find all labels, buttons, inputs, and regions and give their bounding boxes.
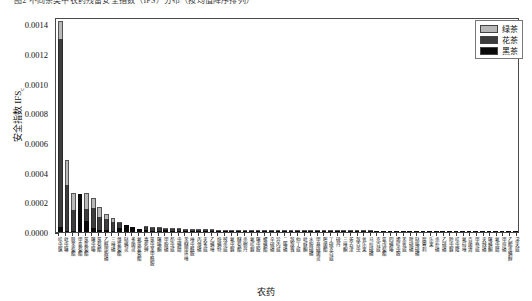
stacked-bar[interactable] <box>368 230 373 232</box>
x-axis-ticks <box>55 233 519 236</box>
stacked-bar[interactable] <box>473 231 478 232</box>
stacked-bar[interactable] <box>328 230 333 232</box>
stacked-bar[interactable] <box>163 228 168 232</box>
x-axis-label-slot: 灭线磷 <box>479 237 486 283</box>
stacked-bar[interactable] <box>421 231 426 232</box>
stacked-bar[interactable] <box>513 231 518 232</box>
x-axis-tick-label: 吡蚜酮 <box>301 237 306 251</box>
stacked-bar[interactable] <box>78 194 83 232</box>
x-axis-label-slot: 乐果 <box>426 237 433 283</box>
bar-segment-dark-tea <box>480 231 485 232</box>
stacked-bar[interactable] <box>361 230 366 232</box>
stacked-bar[interactable] <box>480 231 485 232</box>
x-axis-tick-label: 噻螨酮 <box>487 237 492 251</box>
stacked-bar[interactable] <box>394 231 399 232</box>
x-axis-tick-label: 啶虫脒 <box>56 237 61 251</box>
stacked-bar[interactable] <box>454 231 459 232</box>
stacked-bar[interactable] <box>355 230 360 232</box>
figure-container: 图2 不同茶类中农药残留安全指数（IFS）分布（按均值降序排列） 0.00000… <box>0 0 532 301</box>
stacked-bar[interactable] <box>308 230 313 232</box>
stacked-bar[interactable] <box>407 231 412 232</box>
stacked-bar[interactable] <box>65 160 70 232</box>
stacked-bar[interactable] <box>282 230 287 232</box>
x-axis-tick-label: 氯菊酯 <box>96 237 101 251</box>
stacked-bar[interactable] <box>111 218 116 233</box>
stacked-bar[interactable] <box>315 230 320 232</box>
bar-slot <box>275 19 282 232</box>
stacked-bar[interactable] <box>487 231 492 232</box>
stacked-bar[interactable] <box>401 231 406 232</box>
bar-slot <box>235 19 242 232</box>
stacked-bar[interactable] <box>91 198 96 232</box>
stacked-bar[interactable] <box>71 193 76 232</box>
stacked-bar[interactable] <box>381 231 386 232</box>
x-axis-tick-label: 水胺硫磷 <box>308 237 313 256</box>
stacked-bar[interactable] <box>262 230 267 232</box>
stacked-bar[interactable] <box>190 229 195 232</box>
stacked-bar[interactable] <box>183 229 188 232</box>
stacked-bar[interactable] <box>269 230 274 232</box>
stacked-bar[interactable] <box>506 231 511 232</box>
stacked-bar[interactable] <box>500 231 505 232</box>
stacked-bar[interactable] <box>144 226 149 232</box>
stacked-bar[interactable] <box>467 231 472 232</box>
stacked-bar[interactable] <box>229 230 234 232</box>
stacked-bar[interactable] <box>427 231 432 232</box>
stacked-bar[interactable] <box>117 222 122 232</box>
stacked-bar[interactable] <box>243 230 248 232</box>
stacked-bar[interactable] <box>170 228 175 232</box>
stacked-bar[interactable] <box>440 231 445 232</box>
legend-item-flower-tea[interactable]: 花茶 <box>480 34 518 45</box>
stacked-bar[interactable] <box>104 214 109 232</box>
stacked-bar[interactable] <box>295 230 300 232</box>
stacked-bar[interactable] <box>58 21 63 232</box>
stacked-bar[interactable] <box>249 230 254 232</box>
stacked-bar[interactable] <box>289 230 294 232</box>
stacked-bar[interactable] <box>434 231 439 232</box>
stacked-bar[interactable] <box>447 231 452 232</box>
stacked-bar[interactable] <box>130 227 135 232</box>
stacked-bar[interactable] <box>348 230 353 232</box>
stacked-bar[interactable] <box>137 229 142 232</box>
bar-slot <box>308 19 315 232</box>
x-axis-label-slot: 噻嗪酮 <box>154 237 161 283</box>
stacked-bar[interactable] <box>374 231 379 232</box>
stacked-bar[interactable] <box>341 230 346 232</box>
stacked-bar[interactable] <box>256 230 261 232</box>
x-axis-tick-label: 四螨嗪 <box>387 237 392 251</box>
x-axis-tick-label: 喹硫磷 <box>407 237 412 251</box>
stacked-bar[interactable] <box>335 230 340 232</box>
bar-slot <box>255 19 262 232</box>
stacked-bar[interactable] <box>124 225 129 232</box>
x-axis-label-slot: 莠去津 <box>347 237 354 283</box>
stacked-bar[interactable] <box>236 230 241 232</box>
stacked-bar[interactable] <box>216 230 221 232</box>
stacked-bar[interactable] <box>150 227 155 232</box>
x-axis-label-slot: 氯菊酯 <box>95 237 102 283</box>
stacked-bar[interactable] <box>414 231 419 232</box>
stacked-bar[interactable] <box>157 227 162 232</box>
stacked-bar[interactable] <box>302 230 307 232</box>
bar-slot <box>453 19 460 232</box>
stacked-bar[interactable] <box>203 229 208 232</box>
stacked-bar[interactable] <box>388 231 393 232</box>
stacked-bar[interactable] <box>493 231 498 232</box>
stacked-bar[interactable] <box>460 231 465 232</box>
stacked-bar[interactable] <box>210 229 215 232</box>
bar-slot <box>459 19 466 232</box>
legend-item-dark-tea[interactable]: 黑茶 <box>480 45 518 56</box>
bar-segment-dark-tea <box>454 231 459 232</box>
stacked-bar[interactable] <box>276 230 281 232</box>
stacked-bar[interactable] <box>196 229 201 232</box>
bar-slot <box>420 19 427 232</box>
bar-segment-dark-tea <box>144 230 149 232</box>
stacked-bar[interactable] <box>177 228 182 232</box>
stacked-bar[interactable] <box>223 230 228 232</box>
bar-slot <box>130 19 137 232</box>
legend-item-green-tea[interactable]: 绿茶 <box>480 23 518 34</box>
stacked-bar[interactable] <box>322 230 327 232</box>
stacked-bar[interactable] <box>84 193 89 232</box>
x-axis-tick-mark <box>290 233 291 236</box>
bar-segment-dark-tea <box>302 231 307 232</box>
stacked-bar[interactable] <box>97 207 102 232</box>
